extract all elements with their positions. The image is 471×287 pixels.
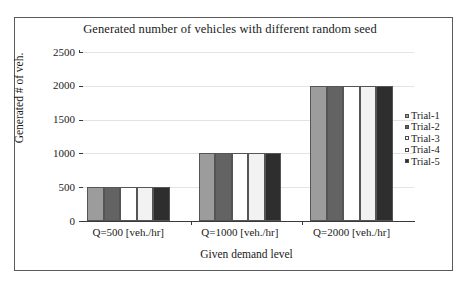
y-tick-label: 1000 <box>35 148 75 159</box>
x-tick-label: Q=500 [veh./hr] <box>73 226 183 238</box>
bar[interactable] <box>248 153 265 221</box>
x-tick-label: Q=1000 [veh./hr] <box>185 226 295 238</box>
bar[interactable] <box>265 153 282 221</box>
y-tick-label: 1500 <box>35 114 75 125</box>
chart-title: Generated number of vehicles with differ… <box>30 22 430 37</box>
y-tick-label: 2000 <box>35 80 75 91</box>
bar[interactable] <box>87 187 104 221</box>
legend-item[interactable]: Trial-4 <box>405 144 465 155</box>
y-axis-title: Generated # of veh. <box>13 43 25 153</box>
legend-swatch-icon <box>405 159 409 163</box>
legend-swatch-icon <box>405 148 409 152</box>
legend-label: Trial-1 <box>411 110 440 121</box>
bar[interactable] <box>137 187 154 221</box>
y-tick-mark <box>79 221 83 222</box>
x-tick-label: Q=2000 [veh./hr] <box>297 226 407 238</box>
bar[interactable] <box>343 86 360 221</box>
bar[interactable] <box>153 187 170 221</box>
y-tick-mark <box>79 187 83 188</box>
y-tick-label: 0 <box>35 216 75 227</box>
legend-label: Trial-4 <box>411 144 440 155</box>
legend: Trial-1Trial-2Trial-3Trial-4Trial-5 <box>405 110 465 167</box>
y-tick-mark <box>79 153 83 154</box>
y-axis-tick-labels: 05001000150020002500 <box>32 52 75 221</box>
x-tick-mark <box>191 221 192 225</box>
legend-swatch-icon <box>405 136 409 140</box>
bar[interactable] <box>104 187 121 221</box>
bar-group <box>199 52 282 221</box>
bar[interactable] <box>376 86 393 221</box>
y-tick-mark <box>79 86 83 87</box>
legend-item[interactable]: Trial-1 <box>405 110 465 121</box>
bar[interactable] <box>199 153 216 221</box>
bar[interactable] <box>120 187 137 221</box>
bar[interactable] <box>232 153 249 221</box>
legend-swatch-icon <box>405 114 409 118</box>
y-tick-label: 2500 <box>35 47 75 58</box>
legend-item[interactable]: Trial-5 <box>405 156 465 167</box>
x-axis-line <box>79 221 415 222</box>
bar-group <box>310 52 393 221</box>
y-tick-mark <box>79 120 83 121</box>
y-tick-label: 500 <box>35 182 75 193</box>
legend-item[interactable]: Trial-3 <box>405 133 465 144</box>
legend-label: Trial-5 <box>411 156 440 167</box>
legend-item[interactable]: Trial-2 <box>405 121 465 132</box>
x-axis-title: Given demand level <box>79 248 414 260</box>
x-tick-mark <box>302 221 303 225</box>
bar-group <box>87 52 170 221</box>
bar[interactable] <box>327 86 344 221</box>
y-tick-mark <box>79 52 83 53</box>
plot-area <box>79 52 414 221</box>
legend-label: Trial-2 <box>411 121 440 132</box>
legend-label: Trial-3 <box>411 133 440 144</box>
legend-swatch-icon <box>405 125 409 129</box>
bar[interactable] <box>310 86 327 221</box>
figure-canvas: Generated number of vehicles with differ… <box>0 0 471 287</box>
bar[interactable] <box>215 153 232 221</box>
bar[interactable] <box>360 86 377 221</box>
